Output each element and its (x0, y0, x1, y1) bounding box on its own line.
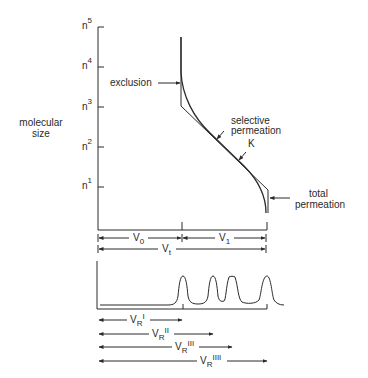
y-tick-label-n5: n5 (82, 16, 93, 31)
annotation-exclusion: exclusion (110, 77, 180, 88)
vr4-label: VRIIII (200, 353, 221, 369)
k-label: K (248, 138, 255, 149)
y-axis-title-line2: size (32, 128, 50, 139)
v0-v1-row: V0 V1 (98, 232, 266, 246)
k-arrow-icon (239, 152, 246, 160)
y-tick-label-n3: n3 (82, 97, 93, 112)
y-axis: n5 n4 n3 n2 n1 (82, 16, 104, 230)
selective-label-line2: permeation (231, 125, 281, 136)
vr2-label: VRII (152, 326, 169, 342)
exclusion-label: exclusion (110, 77, 152, 88)
annotation-total-permeation: total permeation (270, 188, 345, 210)
annotation-selective-permeation: selective permeation (217, 115, 281, 139)
selective-arrow-icon (217, 131, 224, 139)
y-tick-label-n1: n1 (82, 176, 93, 191)
retention-volumes: VRI VRII VRIII VRIIII (99, 312, 267, 369)
chromatogram (97, 261, 284, 309)
vr-4-row: VRIIII (99, 353, 267, 369)
vt-row: Vt (98, 243, 266, 257)
total-label-line1: total (309, 188, 328, 199)
vr1-label: VRI (130, 312, 145, 328)
chromatogram-trace (100, 276, 284, 305)
annotation-k: K (239, 138, 255, 160)
y-tick-label-n2: n2 (82, 137, 93, 152)
vt-label: Vt (162, 243, 172, 257)
gel-permeation-diagram: molecular size n5 n4 n3 n2 n1 exclusion … (0, 0, 368, 378)
vr-1-row: VRI (99, 312, 182, 328)
volume-baseline (98, 222, 267, 230)
vr3-label: VRIII (175, 339, 194, 355)
total-label-line2: permeation (295, 199, 345, 210)
v1-label: V1 (219, 232, 231, 246)
y-tick-label-n4: n4 (82, 56, 93, 71)
y-axis-title-line1: molecular (19, 117, 63, 128)
v0-label: V0 (133, 232, 145, 246)
vr-2-row: VRII (99, 326, 213, 342)
y-axis-title: molecular size (19, 117, 63, 139)
